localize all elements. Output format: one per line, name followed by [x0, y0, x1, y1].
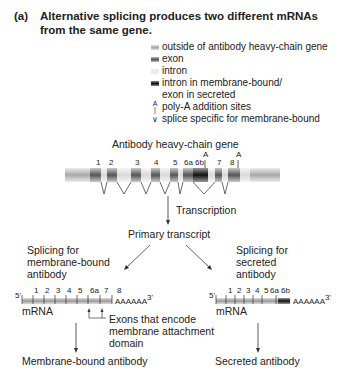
- poly-a-tail: AAAAAA: [293, 297, 325, 306]
- gene-bar: [65, 168, 280, 182]
- splice-secreted-label-3: antibody: [236, 268, 276, 280]
- mrna-exon-label: 8: [117, 286, 121, 295]
- mrna-exon-label: 2: [237, 286, 241, 295]
- three-prime-label: 3': [325, 293, 331, 302]
- splice-membrane-label-3: antibody: [27, 268, 67, 280]
- secreted-product: Secreted antibody: [215, 355, 300, 367]
- five-prime-label: 5': [15, 291, 21, 300]
- splice-membrane-label-2: membrane-bound: [27, 256, 110, 268]
- mrna-exon-label: 6b: [281, 286, 290, 295]
- mrna-exon-label: 7: [104, 286, 108, 295]
- callout-line-1: Exons that encode: [109, 313, 196, 325]
- transcription-label: Transcription: [176, 204, 236, 216]
- mrna-exon-label: 3: [246, 286, 250, 295]
- mrna-secreted-bar: [216, 295, 290, 304]
- mrna-exon-label: 6a: [90, 286, 99, 295]
- primary-transcript-label: Primary transcript: [128, 228, 210, 240]
- splice-membrane-label-1: Splicing for: [27, 244, 79, 256]
- membrane-bound-product: Membrane-bound antibody: [22, 355, 148, 367]
- poly-a-tail: AAAAAA: [115, 297, 147, 306]
- mrna-exon-label: 4: [255, 286, 259, 295]
- mrna-label: mRNA: [22, 305, 53, 317]
- mrna-exon-label: 2: [45, 286, 49, 295]
- mrna-exon-label: 1: [228, 286, 232, 295]
- mrna-exon-label: 6a: [270, 286, 279, 295]
- splice-secreted-label-2: secreted: [236, 256, 276, 268]
- mrna-membrane-bar: [22, 295, 112, 304]
- three-prime-label: 3': [147, 293, 153, 302]
- mrna-exon-label: 5: [78, 286, 82, 295]
- mrna-exon-label: 4: [67, 286, 71, 295]
- callout-line-3: domain: [109, 337, 143, 349]
- splice-secreted-label-1: Splicing for: [236, 244, 288, 256]
- mrna-exon-label: 1: [34, 286, 38, 295]
- mrna-exon-label: 5: [264, 286, 268, 295]
- mrna-label: mRNA: [216, 305, 247, 317]
- splice-lines: [101, 182, 228, 194]
- mrna-exon-label: 3: [56, 286, 60, 295]
- five-prime-label: 5': [209, 291, 215, 300]
- callout-line-2: membrane attachment: [109, 325, 214, 337]
